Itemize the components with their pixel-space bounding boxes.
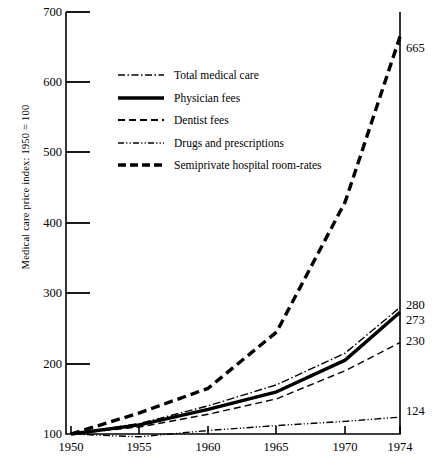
medical-care-price-index-chart: Medical care price index: 1950 = 100 700… (0, 0, 442, 465)
y-axis-ticks (66, 12, 90, 364)
series-line-semiprivate-hospital-room-rates (71, 37, 400, 434)
axis-frame (66, 12, 400, 434)
series-line-physician-fees (71, 312, 400, 434)
series-line-total-medical-care (71, 307, 400, 434)
data-series-layer (71, 37, 400, 437)
plot-area (0, 0, 442, 465)
